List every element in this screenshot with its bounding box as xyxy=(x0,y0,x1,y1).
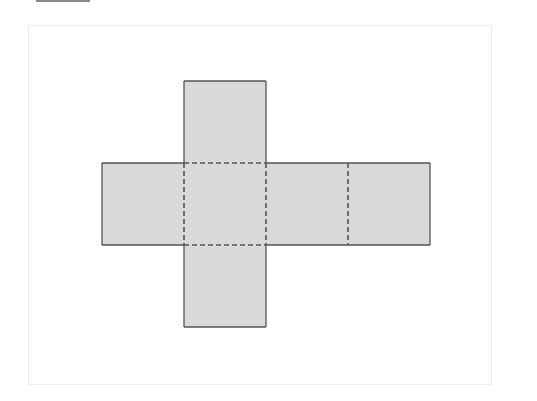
cube-face-right-2 xyxy=(348,163,430,245)
cube-face-right-1 xyxy=(266,163,348,245)
cube-face-center xyxy=(184,163,266,245)
cube-face-bottom xyxy=(184,245,266,327)
cube-net xyxy=(0,0,537,401)
cube-face-top xyxy=(184,81,266,163)
cube-face-left xyxy=(102,163,184,245)
